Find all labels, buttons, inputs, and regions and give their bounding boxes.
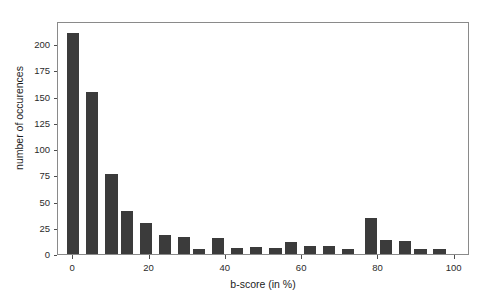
histogram-bar (399, 241, 411, 254)
x-tick-mark (454, 255, 455, 259)
histogram-bar (380, 240, 392, 254)
histogram-bar (67, 33, 79, 254)
histogram-bar (414, 249, 426, 254)
x-tick-label: 0 (70, 262, 75, 273)
histogram-bar (178, 237, 190, 254)
bars-container (58, 23, 468, 254)
histogram-bar (159, 235, 171, 254)
histogram-bar (105, 174, 117, 254)
x-tick-label: 20 (143, 262, 154, 273)
y-tick-label: 150 (34, 93, 50, 103)
plot-panel (57, 22, 469, 255)
x-tick-label: 80 (372, 262, 383, 273)
x-tick-mark (72, 255, 73, 259)
x-tick-label: 100 (446, 262, 462, 273)
histogram-bar (342, 249, 354, 254)
histogram-bar (285, 242, 297, 254)
x-tick-mark (377, 255, 378, 259)
histogram-bar (269, 248, 281, 254)
histogram-bar (121, 211, 133, 254)
y-tick-label: 125 (34, 119, 50, 129)
y-tick-label: 175 (34, 66, 50, 76)
histogram-bar (140, 223, 152, 254)
x-axis-label: b-score (in %) (57, 278, 469, 290)
histogram-bar (433, 249, 445, 254)
histogram-bar (365, 218, 377, 254)
histogram-bar (231, 248, 243, 254)
x-tick-mark (301, 255, 302, 259)
histogram-bar (323, 246, 335, 254)
histogram-bar (193, 249, 205, 254)
x-tick-label: 40 (220, 262, 231, 273)
x-tick-mark (149, 255, 150, 259)
histogram-bar (250, 247, 262, 254)
histogram-bar (212, 238, 224, 254)
x-axis-tick-labels: 020406080100 (57, 262, 469, 276)
x-tick-label: 60 (296, 262, 307, 273)
y-axis-tick-marks (49, 22, 57, 255)
y-axis-tick-labels: 0255075100125150175200 (18, 22, 50, 255)
histogram-bar (304, 246, 316, 254)
histogram-bar (86, 92, 98, 254)
y-tick-label: 100 (34, 145, 50, 155)
x-tick-mark (225, 255, 226, 259)
histogram-figure: number of occurences 0255075100125150175… (0, 0, 486, 303)
y-tick-label: 200 (34, 40, 50, 50)
